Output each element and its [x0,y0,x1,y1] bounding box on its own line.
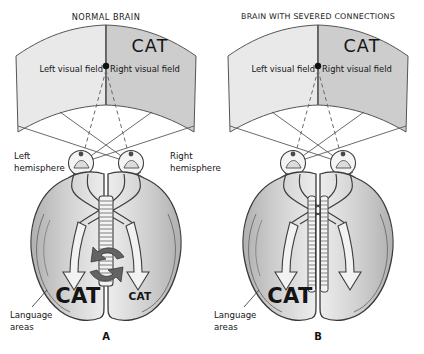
brain-right-hemisphere [320,172,393,320]
fixation-dot [315,63,321,69]
language-areas-label-line1: Language [10,310,52,320]
panel-b-letter: B [212,331,424,342]
split-brain-figure: NORMAL BRAIN [0,0,424,354]
left-visual-field-label: Left visual field [251,64,315,74]
stimulus-word-cat: CAT [343,36,380,56]
callosum-left-stump [308,196,316,292]
panel-normal-brain: NORMAL BRAIN [0,0,212,354]
left-hemisphere-label-line2: hemisphere [14,163,65,173]
callosum-right-stump [321,196,329,292]
left-hemisphere-label-line1: Left [14,151,31,161]
left-visual-field-region [228,25,318,132]
projection-rays [18,112,194,163]
language-area-leader-line [32,290,47,307]
spoken-word-right: CAT [128,290,152,302]
right-visual-field-label: Right visual field [110,64,180,74]
stimulus-word-cat: CAT [131,36,168,56]
right-hemisphere-label-line1: Right [170,151,193,161]
visual-field-arc [228,25,408,132]
panel-b-illustration: CAT Left visual field Right visual field [212,0,424,354]
spoken-word-left: CAT [55,284,101,308]
right-visual-field-label: Right visual field [322,64,392,74]
projection-rays [230,112,406,163]
panel-a-illustration: CAT Left visual field Right visual field [0,0,212,354]
language-area-leader-line [244,290,259,307]
panel-a-letter: A [0,331,212,342]
spoken-word-left: CAT [267,284,313,308]
panel-severed-brain: BRAIN WITH SEVERED CONNECTIONS [212,0,424,354]
language-areas-label-line1: Language [214,310,256,320]
left-visual-field-region [16,25,106,132]
fixation-dot [103,63,109,69]
visual-field-arc [16,25,196,132]
corpus-callosum-severed [308,196,328,292]
left-visual-field-label: Left visual field [39,64,103,74]
